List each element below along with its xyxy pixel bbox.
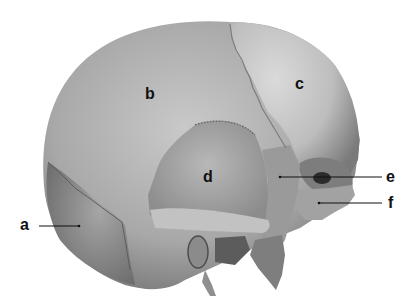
label-d: d <box>203 169 213 185</box>
skull-illustration <box>0 0 415 302</box>
label-a: a <box>20 217 29 233</box>
external-acoustic-meatus <box>188 236 208 268</box>
skull-diagram: a b c d e f <box>0 0 415 302</box>
mandibular-fossa <box>215 236 250 265</box>
styloid-process <box>202 270 216 296</box>
label-c: c <box>295 76 304 92</box>
leader-dot-f <box>318 202 321 205</box>
label-b: b <box>145 86 155 102</box>
leader-dot-a <box>78 225 81 228</box>
label-e: e <box>386 169 395 185</box>
leader-dot-e <box>279 176 282 179</box>
pterygoid-process <box>250 235 285 290</box>
label-f: f <box>388 195 393 211</box>
orbit-shadow <box>313 172 331 184</box>
